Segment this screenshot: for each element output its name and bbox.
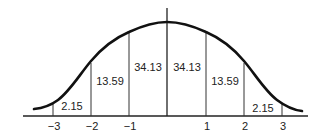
tick-label-m1: −1 xyxy=(124,120,137,132)
region-label-p1-p2: 13.59 xyxy=(211,75,239,87)
tick-label-p3: 3 xyxy=(280,120,286,132)
tick-label-m3: −3 xyxy=(48,120,61,132)
tick-label-p1: 1 xyxy=(204,120,210,132)
normal-distribution-diagram: 2.15 13.59 34.13 34.13 13.59 2.15 −3 −2 … xyxy=(0,0,324,136)
tick-label-m2: −2 xyxy=(86,120,99,132)
region-label-p2-p3: 2.15 xyxy=(252,102,273,114)
tick-label-p2: 2 xyxy=(242,120,248,132)
region-label-m3-m2: 2.15 xyxy=(61,100,82,112)
bell-curve xyxy=(34,22,302,111)
region-label-0-p1: 34.13 xyxy=(173,61,201,73)
region-label-m1-0: 34.13 xyxy=(134,61,162,73)
region-label-m2-m1: 13.59 xyxy=(96,75,124,87)
